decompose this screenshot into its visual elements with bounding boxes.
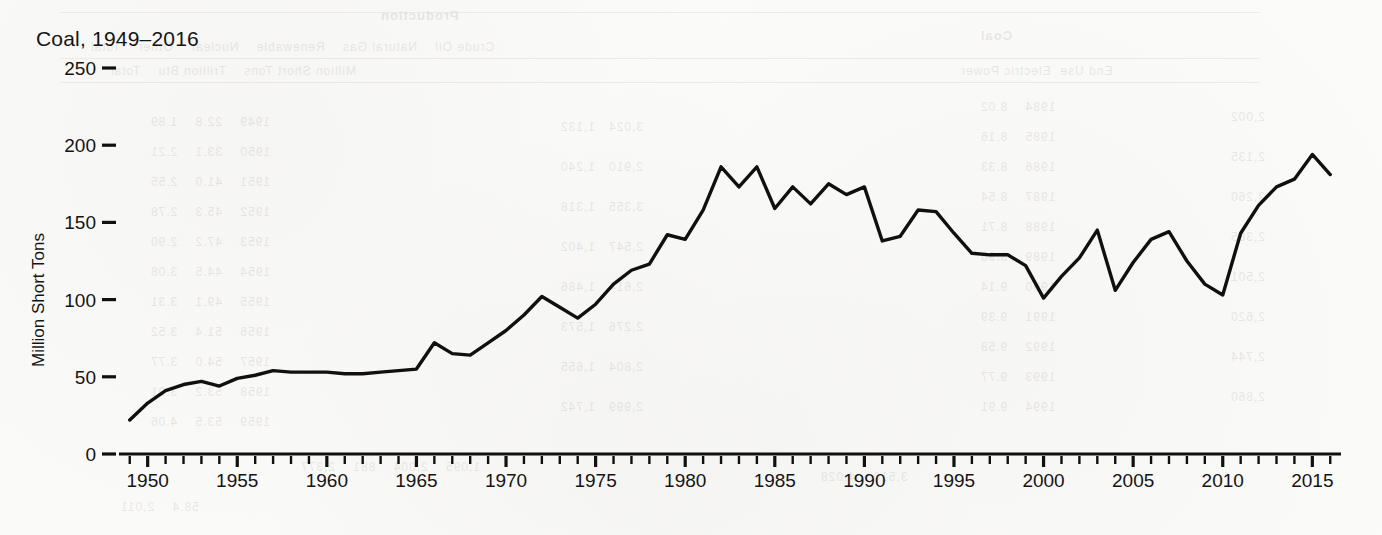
chart-page: Production Coal Crude Oil Natural Gas Re… bbox=[0, 0, 1382, 535]
y-tick-label: 0 bbox=[85, 444, 96, 465]
y-tick-label: 200 bbox=[64, 135, 96, 156]
x-tick-label: 2000 bbox=[1022, 470, 1064, 491]
x-tick-label: 1985 bbox=[754, 470, 796, 491]
x-tick-label: 2010 bbox=[1202, 470, 1244, 491]
x-tick-label: 1990 bbox=[843, 470, 885, 491]
y-tick-label: 50 bbox=[75, 367, 96, 388]
x-tick-label: 1980 bbox=[664, 470, 706, 491]
line-chart-plot: 050100150200250 195019551960196519701975… bbox=[0, 0, 1382, 535]
y-axis-ticks: 050100150200250 bbox=[64, 58, 116, 465]
x-tick-label: 1975 bbox=[574, 470, 616, 491]
x-tick-label: 1955 bbox=[216, 470, 258, 491]
x-tick-label: 1960 bbox=[306, 470, 348, 491]
y-tick-label: 150 bbox=[64, 212, 96, 233]
x-tick-label: 1995 bbox=[933, 470, 975, 491]
x-axis-ticks: 1950195519601965197019751980198519901995… bbox=[127, 456, 1334, 491]
coal-series-line bbox=[130, 154, 1331, 420]
x-tick-label: 2005 bbox=[1112, 470, 1154, 491]
x-tick-label: 1970 bbox=[485, 470, 527, 491]
x-tick-label: 1950 bbox=[127, 470, 169, 491]
x-tick-label: 1965 bbox=[395, 470, 437, 491]
y-tick-label: 250 bbox=[64, 58, 96, 79]
x-tick-label: 2015 bbox=[1291, 470, 1333, 491]
y-tick-label: 100 bbox=[64, 290, 96, 311]
